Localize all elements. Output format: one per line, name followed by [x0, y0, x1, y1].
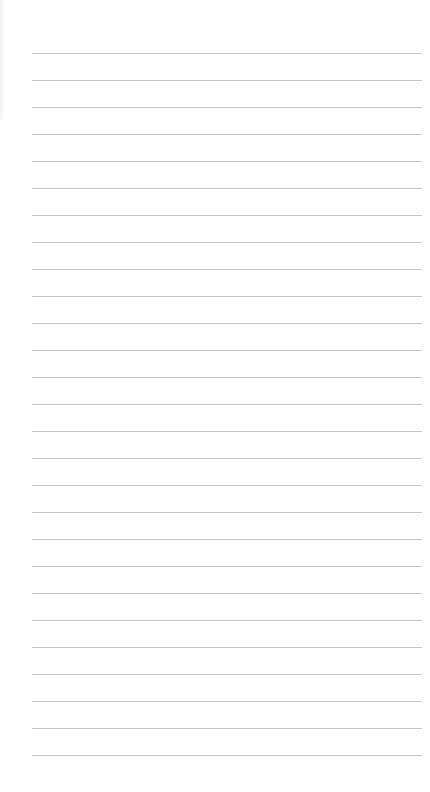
ruled-line — [32, 323, 422, 324]
ruled-line — [32, 404, 422, 405]
ruled-line — [32, 674, 422, 675]
ruled-line — [32, 215, 422, 216]
ruled-line — [32, 701, 422, 702]
ruled-line — [32, 458, 422, 459]
lined-paper-page — [0, 0, 430, 792]
ruled-line — [32, 566, 422, 567]
ruled-line — [32, 53, 422, 54]
ruled-line — [32, 242, 422, 243]
ruled-line — [32, 269, 422, 270]
ruled-line — [32, 755, 422, 756]
ruled-line — [32, 350, 422, 351]
ruled-line — [32, 431, 422, 432]
ruled-line — [32, 593, 422, 594]
ruled-line — [32, 485, 422, 486]
ruled-line — [32, 296, 422, 297]
ruled-line — [32, 188, 422, 189]
ruled-line — [32, 620, 422, 621]
ruled-line — [32, 161, 422, 162]
ruled-line — [32, 377, 422, 378]
ruled-line — [32, 728, 422, 729]
ruled-line — [32, 512, 422, 513]
page-edge-shadow — [0, 0, 6, 120]
ruled-line — [32, 80, 422, 81]
ruled-line — [32, 107, 422, 108]
ruled-line — [32, 647, 422, 648]
ruled-line — [32, 134, 422, 135]
ruled-line — [32, 539, 422, 540]
